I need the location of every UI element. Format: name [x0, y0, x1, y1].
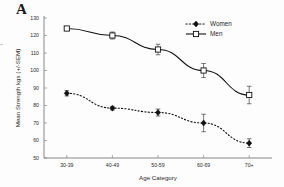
x-tick-label: 70+	[245, 162, 254, 168]
data-point-marker	[247, 140, 252, 146]
scan-artifact	[0, 44, 3, 45]
y-axis-ticks	[44, 18, 47, 158]
series-men	[64, 26, 252, 104]
data-point-marker	[201, 68, 206, 73]
data-point-marker	[64, 26, 69, 31]
x-tick-label: 60-69	[197, 162, 210, 168]
y-tick-label: 130	[30, 15, 39, 21]
data-point-marker	[110, 105, 115, 111]
y-tick-label: 80	[33, 102, 39, 108]
x-axis-ticks	[67, 155, 249, 158]
series-women	[64, 90, 252, 147]
x-axis-tick-labels: 30-3940-4950-5960-6970+	[60, 162, 253, 168]
y-tick-label: 110	[31, 50, 39, 56]
legend-marker-men	[193, 31, 198, 36]
y-tick-label: 50	[33, 155, 39, 161]
series-line-women	[67, 93, 249, 143]
chart-legend: WomenMen	[186, 20, 232, 37]
y-axis-tick-labels: 5060708090100110120130	[30, 15, 39, 161]
x-tick-label: 50-59	[151, 162, 164, 168]
data-point-marker	[64, 90, 69, 96]
x-axis-title: Age Category	[139, 174, 178, 181]
series-line-men	[67, 29, 249, 96]
data-series-layer	[64, 26, 252, 148]
y-tick-label: 120	[30, 32, 39, 38]
data-point-marker	[155, 110, 160, 116]
data-point-marker	[247, 92, 252, 97]
x-tick-label: 30-39	[60, 162, 73, 168]
panel-label: A	[16, 1, 27, 18]
y-tick-label: 90	[33, 85, 39, 91]
legend-item-men: Men	[186, 30, 223, 37]
y-tick-label: 100	[30, 67, 39, 73]
legend-item-women: Women	[186, 20, 232, 27]
x-tick-label: 40-49	[106, 162, 119, 168]
legend-label-women: Women	[210, 20, 232, 27]
y-axis-title: Mean Strength kgs (+/-SEM)	[14, 49, 21, 128]
data-point-marker	[110, 33, 115, 38]
legend-marker-women	[193, 21, 198, 27]
data-point-marker	[155, 47, 160, 52]
y-tick-label: 60	[33, 137, 39, 143]
y-tick-label: 70	[33, 120, 39, 126]
data-point-marker	[201, 120, 206, 126]
strength-by-age-line-chart: 5060708090100110120130 30-3940-4950-5960…	[0, 0, 284, 187]
axes	[44, 16, 272, 158]
legend-label-men: Men	[210, 30, 223, 37]
figure-panel-a: A 5060708090100110120130 30-3940-4950-59…	[0, 0, 284, 187]
